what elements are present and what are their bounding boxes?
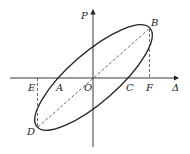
- label-E: E: [27, 82, 36, 93]
- label-F: F: [145, 82, 154, 93]
- label-B: B: [150, 17, 158, 28]
- hysteresis-diagram: P Δ O B D E A C F: [0, 0, 190, 154]
- label-P: P: [80, 10, 88, 21]
- label-delta: Δ: [171, 82, 179, 93]
- label-O: O: [84, 82, 92, 93]
- hysteresis-loop: [21, 10, 166, 146]
- label-C: C: [126, 82, 134, 93]
- label-A: A: [55, 82, 63, 93]
- label-D: D: [26, 126, 35, 137]
- diagonal-DB: [38, 28, 150, 127]
